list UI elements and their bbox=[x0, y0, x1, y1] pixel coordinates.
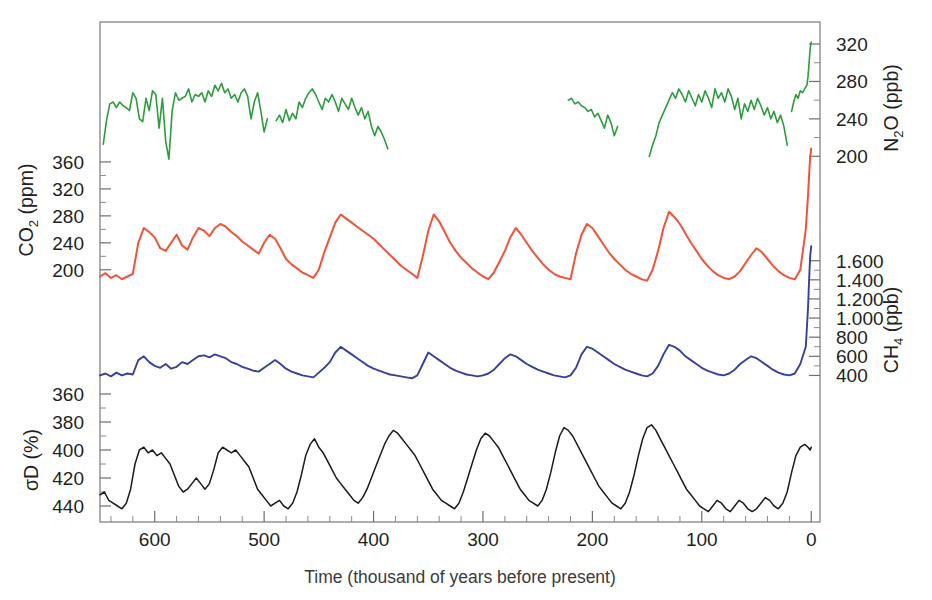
dd-axis-tick-label: 420 bbox=[52, 468, 84, 489]
n2o-axis-tick-label: 200 bbox=[836, 146, 868, 167]
paleoclimate-figure: 6005004003002001000Time (thousand of yea… bbox=[0, 0, 932, 600]
ch4-axis-tick-label: 1.000 bbox=[836, 308, 884, 329]
ch4-axis-title: CH4 (ppb) bbox=[880, 287, 906, 373]
ch4-axis-title-text: CH4 (ppb) bbox=[880, 287, 906, 373]
dd-axis-tick-label: 380 bbox=[52, 412, 84, 433]
n2o-axis-title-text: N2O (ppb) bbox=[880, 64, 906, 151]
co2-axis-tick-label: 240 bbox=[52, 233, 84, 254]
co2-axis-tick-label: 320 bbox=[52, 179, 84, 200]
co2-axis-tick-label: 280 bbox=[52, 206, 84, 227]
x-tick-label: 300 bbox=[467, 529, 499, 550]
co2-axis-tick-label: 200 bbox=[52, 260, 84, 281]
dd-axis: 360380400420440 bbox=[52, 384, 111, 517]
plot-frame bbox=[100, 22, 820, 522]
co2-axis-title: CO2 (ppm) bbox=[15, 164, 41, 257]
x-axis-title: Time (thousand of years before present) bbox=[304, 567, 616, 587]
series-n2o bbox=[103, 42, 811, 159]
dd-axis-tick-label: 440 bbox=[52, 496, 84, 517]
series-co2 bbox=[100, 149, 811, 281]
n2o-segment-0 bbox=[103, 83, 267, 159]
n2o-axis-tick-label: 280 bbox=[836, 71, 868, 92]
x-tick-label: 0 bbox=[806, 529, 817, 550]
co2-axis: 360320280240200 bbox=[52, 152, 111, 281]
n2o-axis-title: N2O (ppb) bbox=[880, 64, 906, 151]
co2-axis-tick-label: 360 bbox=[52, 152, 84, 173]
n2o-segment-3 bbox=[649, 89, 787, 156]
x-tick-label: 400 bbox=[358, 529, 390, 550]
n2o-segment-4 bbox=[792, 42, 812, 111]
ch4-axis-tick-label: 400 bbox=[836, 365, 868, 386]
n2o-axis-tick-label: 240 bbox=[836, 109, 868, 130]
ice-core-chart: 6005004003002001000Time (thousand of yea… bbox=[0, 0, 932, 600]
dd-axis-title: σD (%) bbox=[20, 429, 42, 491]
x-axis: 6005004003002001000 bbox=[111, 511, 817, 550]
n2o-segment-2 bbox=[568, 98, 617, 135]
series-dd bbox=[100, 425, 811, 512]
n2o-axis: 320280240200 bbox=[809, 34, 868, 167]
co2-axis-title-text: CO2 (ppm) bbox=[15, 164, 41, 257]
x-tick-label: 100 bbox=[686, 529, 718, 550]
ch4-axis-tick-label: 1.400 bbox=[836, 270, 884, 291]
x-tick-label: 600 bbox=[139, 529, 171, 550]
series-ch4 bbox=[100, 246, 811, 378]
ch4-axis-tick-label: 600 bbox=[836, 346, 868, 367]
dd-axis-tick-label: 400 bbox=[52, 440, 84, 461]
n2o-axis-tick-label: 320 bbox=[836, 34, 868, 55]
ch4-axis-tick-label: 1.200 bbox=[836, 289, 884, 310]
x-tick-label: 500 bbox=[248, 529, 280, 550]
ch4-axis-tick-label: 1.600 bbox=[836, 251, 884, 272]
x-tick-label: 200 bbox=[577, 529, 609, 550]
dd-axis-tick-label: 360 bbox=[52, 384, 84, 405]
ch4-axis-tick-label: 800 bbox=[836, 327, 868, 348]
n2o-segment-1 bbox=[276, 89, 388, 149]
